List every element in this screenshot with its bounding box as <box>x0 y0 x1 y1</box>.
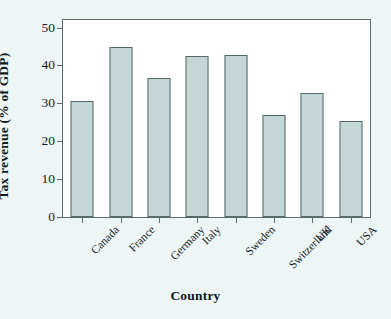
bar[interactable] <box>224 55 247 217</box>
bar-slot <box>101 20 139 217</box>
y-axis-tick-label: 50 <box>42 21 56 35</box>
x-axis-title: Country <box>0 288 391 304</box>
bar[interactable] <box>71 101 94 217</box>
x-axis-tick-mark <box>121 217 122 223</box>
x-axis-tick-mark <box>159 217 160 223</box>
bar[interactable] <box>263 115 286 217</box>
x-axis-tick-mark <box>351 217 352 223</box>
bar[interactable] <box>186 56 209 217</box>
bar-slot <box>332 20 370 217</box>
y-axis-tick-label: 0 <box>48 210 55 224</box>
x-axis-tick-label: Canada <box>89 224 122 257</box>
y-axis-tick-label: 20 <box>42 134 56 148</box>
x-axis-tick-label: France <box>127 224 157 254</box>
bar-slot <box>140 20 178 217</box>
x-axis-tick-label: Germany <box>168 224 206 262</box>
x-axis-tick-mark <box>312 217 313 223</box>
bar-slot <box>63 20 101 217</box>
x-axis-tick-mark <box>236 217 237 223</box>
bar-slot <box>293 20 331 217</box>
x-axis-tick-label: Sweden <box>243 224 277 258</box>
x-axis-tick-label: Italy <box>200 224 223 247</box>
bar[interactable] <box>339 121 362 217</box>
plot-area: 01020304050 <box>63 20 370 217</box>
bar[interactable] <box>301 93 324 217</box>
x-axis-tick-mark <box>82 217 83 223</box>
bar-slot <box>255 20 293 217</box>
bar[interactable] <box>109 47 132 217</box>
bar-chart-figure: Tax revenue (% of GDP) 01020304050 Count… <box>0 0 391 319</box>
y-axis-tick-label: 10 <box>42 172 56 186</box>
plot-frame: 01020304050 <box>62 19 371 218</box>
y-axis-tick-label: 30 <box>42 97 56 111</box>
x-axis-tick-label: USA <box>355 224 379 248</box>
bar-slot <box>217 20 255 217</box>
y-axis-tick-mark <box>57 217 63 218</box>
bar[interactable] <box>147 78 170 217</box>
y-axis-title: Tax revenue (% of GDP) <box>0 53 12 200</box>
y-axis-tick-label: 40 <box>42 59 56 73</box>
x-axis-tick-mark <box>274 217 275 223</box>
bar-slot <box>178 20 216 217</box>
